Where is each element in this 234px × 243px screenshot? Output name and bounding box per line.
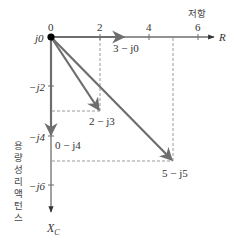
vector-label-2-j3: 2 − j3 xyxy=(89,116,115,127)
x-tick-4: 4 xyxy=(146,22,152,33)
x-tick-6: 6 xyxy=(195,22,201,33)
vector-2-j3 xyxy=(51,37,99,110)
y-tick-j2: −j2 xyxy=(29,82,45,93)
x-tick-2: 2 xyxy=(97,22,103,33)
y-tick-j6: −j6 xyxy=(29,181,45,192)
vector-label-5-j5: 5 − j5 xyxy=(162,168,188,179)
y-axis-title: 용량성 리액턴스 xyxy=(13,140,23,224)
x-axis-title: 저항 xyxy=(188,9,206,19)
y-axis-label: XC xyxy=(47,222,60,237)
y-tick-j4: −j4 xyxy=(29,132,45,143)
vector-label-3-j0: 3 − j0 xyxy=(113,43,139,54)
origin-dot xyxy=(47,33,54,40)
x-tick-0: 0 xyxy=(48,22,54,33)
vector-label-0-j4: 0 − j4 xyxy=(55,140,81,151)
x-axis-label: R xyxy=(219,32,226,43)
y-tick-j0: j0 xyxy=(35,33,44,44)
